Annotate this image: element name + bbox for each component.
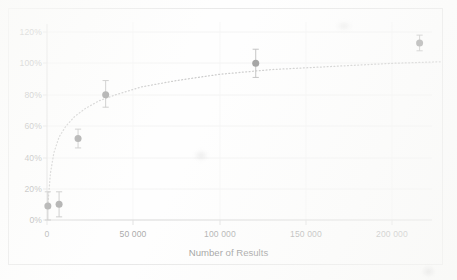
data-point [252,60,259,67]
data-point [75,135,82,142]
x-tick-label: 100 000 [190,229,250,239]
gridlines-horizontal [47,32,432,189]
data-point [102,91,109,98]
y-tick-label: 100% [8,58,42,68]
chart-figure: 120% 100% 80% 60% 40% 20% 0% 0 50 000 10… [0,0,457,280]
trendline-dotted [48,62,440,203]
data-point [44,202,51,209]
x-axis-title: Number of Results [0,247,457,258]
data-markers [44,39,423,209]
x-tick-label: 0 [17,229,77,239]
x-tick-marks [47,220,392,225]
x-tick-label: 50 000 [103,229,163,239]
y-tick-label: 80% [8,90,42,100]
y-tick-label: 40% [8,153,42,163]
data-point [56,201,63,208]
x-tick-label: 150 000 [276,229,336,239]
y-tick-label: 0% [8,215,42,225]
y-tick-label: 20% [8,184,42,194]
data-point [416,39,423,46]
axis-lines [47,24,432,220]
y-tick-label: 120% [8,27,42,37]
gridlines-vertical [133,22,392,220]
x-tick-label: 200 000 [362,229,422,239]
y-tick-label: 60% [8,121,42,131]
